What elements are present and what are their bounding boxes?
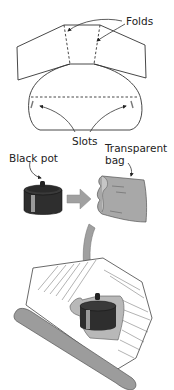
assembled-cooker bbox=[14, 258, 152, 390]
slots-arrow-left bbox=[40, 106, 75, 132]
right-arrow-icon bbox=[67, 189, 91, 209]
transparent-bag-label-line1: Transparent bbox=[105, 143, 167, 154]
black-pot-label: Black pot bbox=[9, 153, 58, 164]
slots-arrow-right bbox=[90, 106, 126, 132]
black-pot-icon bbox=[24, 181, 62, 215]
transparent-bag-icon bbox=[97, 176, 146, 222]
transparent-bag-label-line2: bag bbox=[105, 155, 125, 166]
bag-arrow bbox=[128, 163, 132, 176]
reflector-panel-top bbox=[17, 25, 146, 80]
folds-label: Folds bbox=[126, 16, 153, 27]
reflector-panel-bottom bbox=[29, 64, 142, 130]
solar-cooker-diagram bbox=[0, 0, 174, 390]
slots-label: Slots bbox=[72, 136, 98, 147]
folds-arrow-right bbox=[97, 24, 125, 41]
black-pot-arrow bbox=[30, 162, 41, 178]
